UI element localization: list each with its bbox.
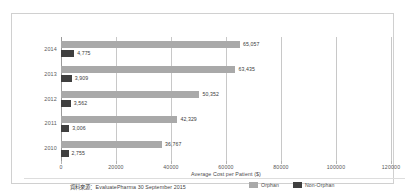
- bar-non-orphan-2014: [61, 50, 74, 57]
- y-axis-label-2012: 2012: [44, 96, 57, 102]
- bar-value-label: 50,352: [202, 91, 218, 98]
- legend-item-non-orphan[interactable]: Non-Orphan: [293, 182, 335, 188]
- bar-non-orphan-2011: [61, 125, 69, 132]
- y-axis-label-2013: 2013: [44, 71, 57, 77]
- legend-swatch-icon: [249, 182, 258, 188]
- bar-orphan-2010: [61, 141, 162, 148]
- bar-orphan-2013: [61, 66, 235, 73]
- chart-legend: OrphanNon-Orphan: [249, 182, 334, 188]
- bar-value-label: 36,767: [165, 141, 181, 148]
- x-tick-label-40000: 40000: [163, 164, 178, 170]
- chart-page: 20142013201220112010 65,0574,77563,4353,…: [0, 0, 407, 195]
- bar-non-orphan-2013: [61, 75, 72, 82]
- bar-value-label: 3,006: [72, 125, 85, 132]
- y-axis-category-labels: 20142013201220112010: [30, 37, 57, 161]
- x-tick-label-20000: 20000: [108, 164, 123, 170]
- gridline-120000: [391, 37, 392, 161]
- bar-orphan-2012: [61, 91, 199, 98]
- legend-swatch-icon: [293, 182, 302, 188]
- source-note: 資料來源：EvaluatePharma 30 September 2015: [70, 183, 186, 191]
- x-tick-label-80000: 80000: [273, 164, 288, 170]
- x-tick-label-0: 0: [59, 164, 62, 170]
- y-axis-label-2014: 2014: [44, 46, 57, 52]
- bar-value-label: 3,562: [74, 100, 87, 107]
- plot-area: 65,0574,77563,4353,90950,3523,56242,3293…: [61, 37, 391, 161]
- bar-non-orphan-2012: [61, 100, 71, 107]
- legend-item-orphan[interactable]: Orphan: [249, 182, 279, 188]
- x-tick-label-120000: 120000: [382, 164, 401, 170]
- y-axis-label-2010: 2010: [44, 145, 57, 151]
- legend-label: Orphan: [261, 182, 279, 188]
- legend-label: Non-Orphan: [305, 182, 335, 188]
- bar-value-label: 42,329: [180, 116, 196, 123]
- bar-value-label: 63,435: [238, 66, 254, 73]
- bar-value-label: 3,909: [75, 75, 88, 82]
- x-tick-label-60000: 60000: [218, 164, 233, 170]
- bar-orphan-2014: [61, 41, 240, 48]
- bar-value-label: 2,755: [72, 150, 85, 157]
- figure-frame: 20142013201220112010 65,0574,77563,4353,…: [11, 13, 394, 184]
- bar-non-orphan-2010: [61, 150, 69, 157]
- plot-bars: 65,0574,77563,4353,90950,3523,56242,3293…: [61, 37, 391, 161]
- bar-value-label: 65,057: [243, 41, 259, 48]
- chart-footer: 資料來源：EvaluatePharma 30 September 2015 Or…: [24, 178, 405, 195]
- y-axis-label-2011: 2011: [45, 120, 57, 126]
- x-tick-label-100000: 100000: [327, 164, 346, 170]
- bar-orphan-2011: [61, 116, 177, 123]
- bar-value-label: 4,775: [77, 50, 90, 57]
- x-axis-title: Average Cost per Patient ($): [61, 171, 391, 177]
